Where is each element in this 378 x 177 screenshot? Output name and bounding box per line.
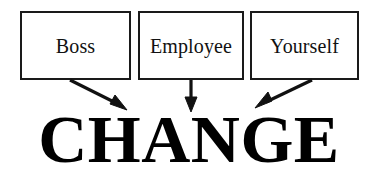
box-yourself: Yourself (250, 11, 359, 80)
box-boss-label: Boss (56, 36, 95, 56)
box-yourself-label: Yourself (270, 36, 339, 56)
box-employee-label: Employee (150, 36, 232, 56)
change-diagram: Boss Employee Yourself CHANGE (0, 0, 378, 177)
headline-change: CHANGE (0, 104, 378, 174)
box-employee: Employee (138, 11, 244, 80)
box-boss: Boss (20, 11, 131, 80)
